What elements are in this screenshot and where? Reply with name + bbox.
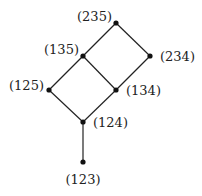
node-134 — [113, 87, 118, 92]
node-125 — [46, 87, 51, 92]
node-label-235: (235) — [77, 9, 112, 24]
edge-135-134 — [83, 56, 116, 90]
node-123 — [80, 159, 85, 164]
edge-235-135 — [83, 23, 116, 56]
node-235 — [113, 20, 118, 25]
node-label-123: (123) — [66, 172, 101, 187]
node-label-134: (134) — [126, 83, 161, 98]
edge-235-234 — [116, 23, 150, 56]
node-135 — [80, 53, 85, 58]
node-label-125: (125) — [9, 78, 44, 93]
edge-135-125 — [49, 56, 83, 90]
edge-125-124 — [49, 90, 83, 122]
hasse-diagram: (235)(135)(234)(125)(134)(124)(123) — [0, 0, 202, 196]
node-124 — [80, 119, 85, 124]
node-label-135: (135) — [44, 42, 79, 57]
node-234 — [147, 53, 152, 58]
node-label-124: (124) — [93, 115, 128, 130]
node-label-234: (234) — [160, 49, 195, 64]
